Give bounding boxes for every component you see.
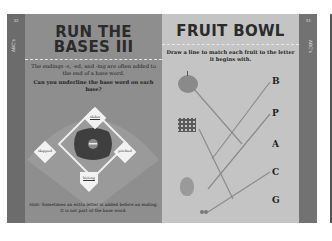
letter-p: P [272, 108, 279, 118]
right-tab-label: ABC's [303, 36, 313, 56]
letter-c: C [272, 167, 279, 177]
left-page-title: RUN THE BASES III [25, 25, 162, 55]
home-plate-word: hitting [77, 176, 101, 180]
right-page-number: 33 [299, 18, 317, 23]
baseball-diamond [7, 90, 162, 210]
letter-g: G [272, 195, 280, 205]
divider [25, 59, 162, 60]
apple-stem [187, 71, 188, 76]
intro-text: The endings -s, -ed, and -ing are often … [27, 63, 160, 77]
base-second-word: slides [83, 115, 107, 119]
pear-icon [180, 177, 194, 196]
base-third-word: skipped [33, 149, 57, 153]
apple-icon [178, 75, 198, 93]
hint-text: Hint: Sometimes an extra letter is added… [27, 202, 160, 214]
right-page: 33 ABC's FRUIT BOWL Draw a line to match… [162, 14, 317, 223]
base-first-word: pitched [113, 149, 137, 153]
left-page: 32 ABC's RUN THE BASES III The endings -… [7, 14, 162, 223]
left-tab-label: ABC's [11, 36, 21, 56]
grapes-icon [178, 118, 196, 132]
left-page-number: 32 [7, 18, 25, 23]
letter-a: A [272, 139, 279, 149]
cherries-icon [200, 210, 204, 214]
letter-b: B [272, 76, 280, 86]
right-side-tab: 33 ABC's [299, 14, 317, 223]
title-line-2: BASES III [25, 40, 162, 55]
